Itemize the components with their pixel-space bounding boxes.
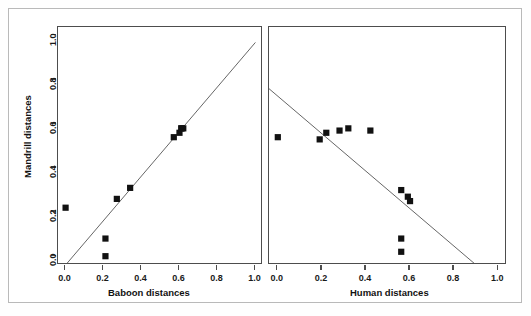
x-tick: [497, 265, 498, 270]
y-tick-label: 0.2: [48, 210, 58, 223]
x-tick-label: 0.0: [53, 273, 77, 283]
x-tick: [140, 265, 141, 270]
x-tick-label: 0.8: [204, 273, 228, 283]
panel-left-series: [58, 27, 262, 264]
x-tick-label: 0.8: [441, 273, 465, 283]
panel-right-plot-area: [269, 27, 505, 263]
x-tick: [216, 265, 217, 270]
x-tick-label: 0.2: [309, 273, 333, 283]
x-tick: [408, 265, 409, 270]
x-tick: [320, 265, 321, 270]
regression-line: [66, 42, 256, 264]
data-point: [102, 235, 108, 241]
data-point: [345, 125, 351, 131]
data-point: [102, 253, 108, 259]
x-tick-label: 0.0: [265, 273, 289, 283]
x-tick-label: 1.0: [485, 273, 509, 283]
y-tick-label: 0.4: [48, 165, 58, 178]
panel-right-series: [269, 27, 506, 264]
x-tick-label: 0.2: [91, 273, 115, 283]
data-point: [336, 127, 342, 133]
data-point: [171, 134, 177, 140]
data-point: [114, 196, 120, 202]
x-tick: [452, 265, 453, 270]
data-point: [323, 130, 329, 136]
data-point: [62, 205, 68, 211]
x-axis-title-right: Human distances: [350, 287, 429, 298]
y-tick-label: 0.0: [48, 254, 58, 267]
data-point: [407, 198, 413, 204]
panel-left-plot-area: [58, 27, 261, 263]
x-tick-label: 0.6: [397, 273, 421, 283]
x-tick: [254, 265, 255, 270]
x-tick-label: 0.4: [353, 273, 377, 283]
panel-right-plot-frame: [268, 26, 506, 264]
x-tick-label: 0.4: [129, 273, 153, 283]
data-point: [398, 235, 404, 241]
y-tick-label: 0.8: [48, 77, 58, 90]
x-tick-label: 1.0: [242, 273, 266, 283]
y-tick-label: 0.6: [48, 121, 58, 134]
data-point: [398, 249, 404, 255]
data-point: [180, 125, 186, 131]
data-point: [367, 127, 373, 133]
data-point: [127, 185, 133, 191]
figure-root: Mandrill distances 0.00.20.40.60.81.00.0…: [0, 0, 531, 316]
data-point: [317, 136, 323, 142]
y-tick-label: 1.0: [48, 33, 58, 46]
x-tick: [364, 265, 365, 270]
panel-left-plot-frame: [57, 26, 262, 264]
x-tick: [276, 265, 277, 270]
x-tick: [178, 265, 179, 270]
data-point: [275, 134, 281, 140]
y-axis-title: Mandrill distances: [22, 95, 33, 178]
regression-line: [269, 89, 476, 264]
x-tick: [102, 265, 103, 270]
x-tick-label: 0.6: [167, 273, 191, 283]
x-axis-title-left: Baboon distances: [108, 287, 190, 298]
data-point: [398, 187, 404, 193]
x-tick: [64, 265, 65, 270]
